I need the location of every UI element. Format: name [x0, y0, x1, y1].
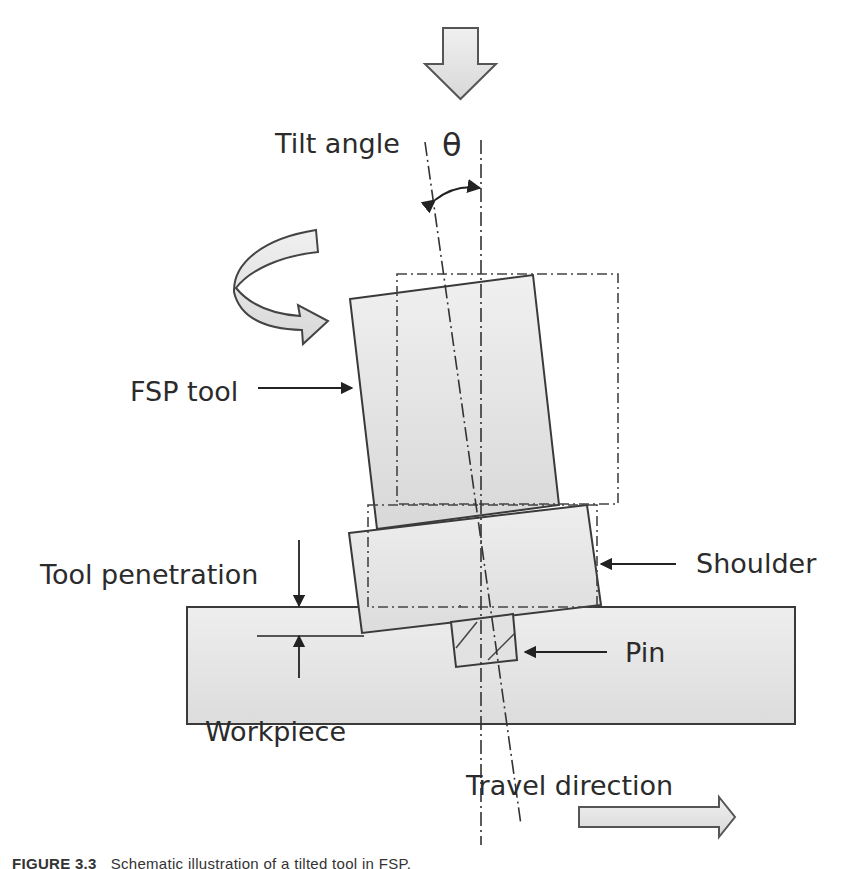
caption-text: Schematic illustration of a tilted tool …: [111, 855, 412, 869]
figure-caption: FIGURE 3.3Schematic illustration of a ti…: [12, 855, 411, 869]
fsp-diagram: Tilt angle θ FSP tool Tool penetration S…: [0, 0, 858, 869]
figure-number: FIGURE 3.3: [12, 855, 97, 869]
down-force-arrow-icon: [425, 28, 496, 99]
rotation-arrow-icon: [234, 230, 328, 344]
theta-symbol: θ: [442, 126, 462, 164]
workpiece-label: Workpiece: [205, 716, 346, 747]
tool-penetration-label: Tool penetration: [39, 559, 258, 590]
travel-direction-label: Travel direction: [465, 770, 673, 801]
tool-pin: [451, 614, 517, 667]
tilt-angle-arc: [435, 187, 480, 200]
fsp-tool-body: [350, 275, 559, 529]
shoulder-label: Shoulder: [696, 548, 817, 579]
tilt-angle-label: Tilt angle: [274, 128, 400, 159]
pin-label: Pin: [625, 637, 665, 668]
fsp-tool-label: FSP tool: [130, 376, 238, 407]
travel-direction-arrow-icon: [579, 797, 735, 837]
